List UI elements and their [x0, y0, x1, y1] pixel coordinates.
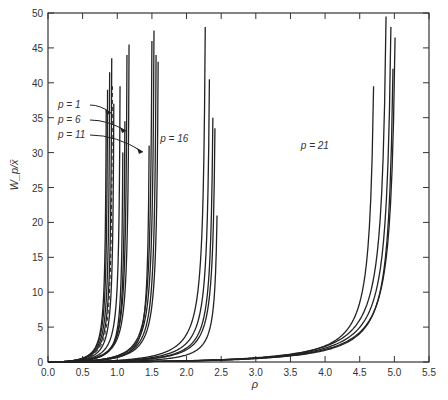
x-tick-label: 1.0	[110, 367, 124, 378]
annotation-label: p = 1	[57, 99, 81, 110]
x-tick-label: 5.0	[387, 367, 401, 378]
annotation-label: p = 6	[57, 114, 81, 125]
x-tick-label: 5.5	[422, 367, 436, 378]
x-tick-label: 2.5	[214, 367, 228, 378]
chart-canvas: 0.00.51.01.52.02.53.03.54.04.55.05.50510…	[0, 0, 448, 400]
x-tick-label: 3.5	[284, 367, 298, 378]
y-tick-label: 35	[32, 113, 44, 124]
x-tick-label: 4.0	[318, 367, 332, 378]
y-tick-label: 15	[32, 252, 44, 263]
y-axis-label: W_p/x̄	[8, 159, 20, 191]
y-tick-label: 40	[32, 78, 44, 89]
curve-p11-1	[48, 41, 152, 362]
curve-p11-0	[48, 146, 149, 362]
y-tick-label: 5	[37, 322, 43, 333]
y-tick-label: 10	[32, 287, 44, 298]
x-tick-label: 0.0	[41, 367, 55, 378]
x-axis-label: ρ	[251, 378, 258, 390]
plot-axes: 0.00.51.01.52.02.53.03.54.04.55.05.50510…	[32, 8, 437, 378]
curve-p21-4	[48, 37, 395, 362]
curve-p16-2	[48, 118, 213, 362]
curve-p21-2	[48, 27, 391, 362]
curve-series	[48, 16, 395, 362]
y-tick-label: 30	[32, 148, 44, 159]
annotation-label: p = 11	[57, 129, 85, 140]
curve-p6-4	[48, 44, 129, 362]
annotation-label: p = 21	[300, 140, 329, 151]
x-tick-label: 2.0	[180, 367, 194, 378]
x-tick-label: 3.0	[249, 367, 263, 378]
y-tick-label: 0	[37, 357, 43, 368]
curve-p21-1	[48, 16, 386, 362]
x-tick-label: 0.5	[76, 367, 90, 378]
chart: 0.00.51.01.52.02.53.03.54.04.55.05.50510…	[0, 0, 448, 400]
x-tick-label: 1.5	[145, 367, 159, 378]
curve-p21-3	[48, 69, 393, 362]
curve-p1-0	[48, 111, 106, 362]
annotation-label: p = 16	[159, 133, 189, 144]
y-tick-label: 20	[32, 217, 44, 228]
x-tick-label: 4.5	[353, 367, 367, 378]
annotation-arrow	[90, 135, 143, 152]
y-tick-label: 50	[32, 8, 44, 19]
y-tick-label: 25	[32, 183, 44, 194]
curve-p11-2	[48, 30, 154, 362]
y-tick-label: 45	[32, 43, 44, 54]
curve-p16-4	[48, 215, 217, 362]
annotations: p = 1p = 6p = 11p = 16p = 21	[57, 99, 329, 154]
